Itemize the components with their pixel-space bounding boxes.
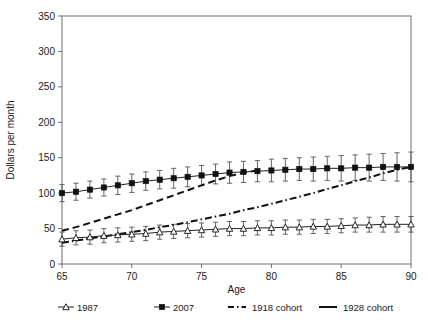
data-point-2007 xyxy=(380,164,385,169)
data-point-2007 xyxy=(73,189,78,194)
series-2007-line xyxy=(62,167,411,193)
y-axis-tick-label: 0 xyxy=(49,259,55,270)
x-axis-title: Age xyxy=(228,284,246,295)
x-axis-tick-label: 65 xyxy=(56,271,68,282)
data-point-2007 xyxy=(353,165,358,170)
data-point-2007 xyxy=(408,164,413,169)
data-point-2007 xyxy=(143,178,148,183)
legend-item-1987[interactable]: 1987 xyxy=(58,302,98,313)
legend-label: 1987 xyxy=(77,302,98,313)
series-1987-markers xyxy=(59,221,414,242)
data-point-2007 xyxy=(283,167,288,172)
data-point-2007 xyxy=(394,164,399,169)
data-point-2007 xyxy=(171,176,176,181)
data-point-2007 xyxy=(59,191,64,196)
legend-label: 1928 cohort xyxy=(343,302,394,313)
x-axis-tick-label: 70 xyxy=(126,271,138,282)
data-point-2007 xyxy=(255,169,260,174)
y-axis-tick-label: 150 xyxy=(38,152,55,163)
y-axis-tick-label: 50 xyxy=(44,223,56,234)
data-point-2007 xyxy=(311,166,316,171)
y-axis-tick-label: 350 xyxy=(38,11,55,22)
x-axis-tick-label: 90 xyxy=(405,271,417,282)
y-axis-tick-label: 300 xyxy=(38,46,55,57)
legend-label: 2007 xyxy=(173,302,194,313)
x-axis-tick-label: 80 xyxy=(266,271,278,282)
legend-item-1918-cohort[interactable]: 1918 cohort xyxy=(228,302,303,313)
y-axis-tick-label: 100 xyxy=(38,188,55,199)
data-point-2007 xyxy=(87,187,92,192)
data-point-2007 xyxy=(241,169,246,174)
data-point-2007 xyxy=(367,165,372,170)
series-1987-error-bars xyxy=(59,217,413,247)
x-axis-tick-label: 75 xyxy=(196,271,208,282)
data-point-2007 xyxy=(297,166,302,171)
dollars-per-month-by-age-chart: 050100150200250300350657075808590AgeDoll… xyxy=(0,0,428,324)
chart-container: 050100150200250300350657075808590AgeDoll… xyxy=(0,0,428,324)
data-point-2007 xyxy=(269,168,274,173)
y-axis-title: Dollars per month xyxy=(5,101,16,180)
legend-item-1928-cohort[interactable]: 1928 cohort xyxy=(319,302,394,313)
data-point-2007 xyxy=(101,185,106,190)
plot-area-border xyxy=(62,16,411,264)
data-point-2007 xyxy=(339,166,344,171)
series-1918-cohort-line xyxy=(62,167,411,243)
data-point-2007 xyxy=(325,166,330,171)
data-point-2007 xyxy=(213,171,218,176)
legend-item-2007[interactable]: 2007 xyxy=(154,302,194,313)
data-point-2007 xyxy=(115,183,120,188)
series-2007-error-bars xyxy=(59,152,413,202)
x-axis-tick-label: 85 xyxy=(336,271,348,282)
data-point-2007 xyxy=(199,173,204,178)
legend-marker-filled-square xyxy=(159,304,164,309)
data-point-2007 xyxy=(129,181,134,186)
series-1987-line xyxy=(62,224,411,239)
data-point-2007 xyxy=(157,177,162,182)
legend-label: 1918 cohort xyxy=(252,302,303,313)
data-point-2007 xyxy=(185,174,190,179)
y-axis-tick-label: 250 xyxy=(38,81,55,92)
data-point-2007 xyxy=(227,170,232,175)
y-axis-tick-label: 200 xyxy=(38,117,55,128)
